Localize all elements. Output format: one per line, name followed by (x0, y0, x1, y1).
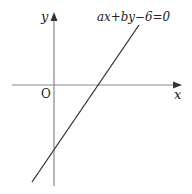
y-axis-label: y (40, 9, 49, 24)
equation-label: ax+by−6=0 (97, 10, 170, 24)
equation-line (32, 25, 139, 182)
coordinate-diagram: y x O ax+by−6=0 (0, 0, 192, 194)
origin-label: O (41, 87, 51, 101)
x-axis-label: x (174, 87, 182, 102)
y-axis-arrow-icon (51, 12, 58, 21)
